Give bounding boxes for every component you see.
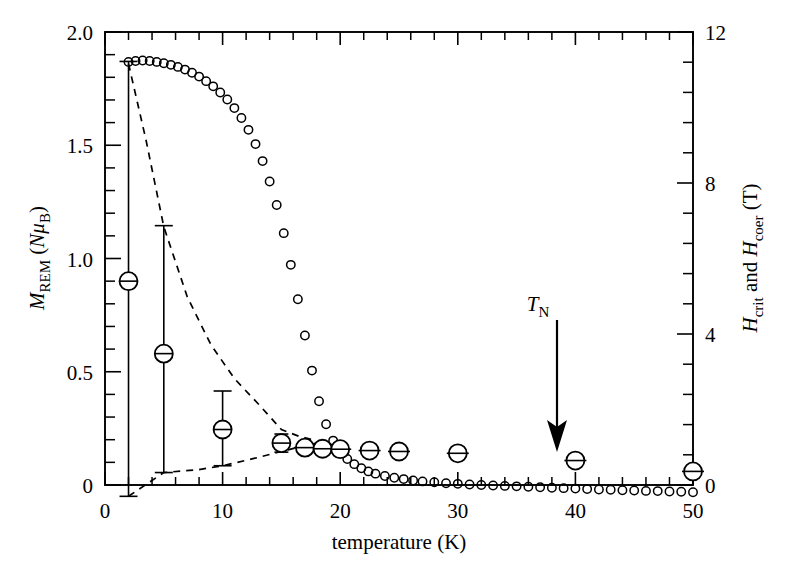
- svg-text:MREM (NμB): MREM (NμB): [25, 206, 53, 311]
- y-left-title-main: M: [25, 291, 49, 311]
- data-point-mrem: [223, 95, 231, 103]
- data-point-mrem: [583, 485, 591, 493]
- y-right-title-sub1: crit: [750, 297, 766, 318]
- x-axis-tick-labels: 01020304050: [100, 499, 704, 523]
- data-point-mrem: [280, 229, 288, 237]
- y-left-tick-label: 0: [83, 474, 94, 498]
- y-right-axis-major-ticks: [677, 32, 693, 485]
- x-tick-label: 0: [100, 499, 111, 523]
- y-left-title-B: B: [37, 213, 53, 223]
- y-right-axis-title: Hcrit and Hcoer (T): [738, 183, 766, 333]
- y-right-title-sub2: coer: [750, 216, 766, 242]
- y-left-axis-tick-labels: 00.51.01.52.0: [67, 21, 93, 498]
- y-right-tick-label: 0: [705, 474, 716, 498]
- data-point-mrem: [665, 487, 673, 495]
- data-point-mrem: [381, 472, 389, 480]
- y-left-tick-label: 1.5: [67, 134, 93, 158]
- y-right-title-units: (T): [738, 183, 762, 215]
- y-left-tick-label: 1.0: [67, 248, 93, 272]
- tn-annotation: TN: [527, 292, 567, 452]
- data-point-mrem: [272, 201, 280, 209]
- data-point-mrem: [294, 295, 302, 303]
- y-right-title-and: and: [738, 257, 762, 298]
- magnetization-vs-temperature-chart: 01020304050 00.51.01.52.0 04812 TN tempe…: [0, 0, 792, 570]
- x-axis-major-ticks: [105, 32, 693, 485]
- x-tick-label: 40: [565, 499, 586, 523]
- y-left-title-paren-open: (: [25, 248, 49, 260]
- data-point-mrem: [512, 482, 520, 490]
- y-left-title-N: N: [25, 233, 49, 249]
- dashed-guide-curve: [129, 64, 317, 441]
- data-point-mrem: [595, 485, 603, 493]
- data-point-mrem: [308, 366, 316, 374]
- x-tick-label: 30: [447, 499, 468, 523]
- x-axis-title: temperature (K): [332, 530, 467, 554]
- data-point-mrem: [209, 82, 217, 90]
- x-tick-label: 20: [330, 499, 351, 523]
- data-point-mrem: [251, 140, 259, 148]
- data-point-mrem: [442, 479, 450, 487]
- y-right-axis-minor-ticks: [683, 62, 693, 455]
- x-tick-label: 10: [212, 499, 233, 523]
- tn-label-sub: N: [538, 304, 549, 320]
- x-axis-minor-ticks: [129, 32, 670, 485]
- figure-container: 01020304050 00.51.01.52.0 04812 TN tempe…: [0, 0, 792, 570]
- data-point-mrem: [689, 488, 697, 496]
- y-right-tick-label: 12: [705, 21, 726, 45]
- data-point-mrem: [677, 488, 685, 496]
- data-point-mrem: [265, 177, 273, 185]
- data-point-mrem: [216, 88, 224, 96]
- data-point-mrem: [301, 331, 309, 339]
- y-left-title-mu: μ: [25, 223, 49, 235]
- y-right-tick-label: 8: [705, 172, 716, 196]
- y-left-axis-title: MREM (NμB): [25, 206, 53, 311]
- data-point-mrem: [390, 474, 398, 482]
- plot-frame: [105, 32, 693, 485]
- y-left-tick-label: 2.0: [67, 21, 93, 45]
- data-point-mrem: [244, 126, 252, 134]
- data-point-mrem: [630, 486, 638, 494]
- y-right-tick-label: 4: [705, 323, 716, 347]
- error-bar-group: [120, 61, 704, 496]
- svg-text:Hcrit and Hcoer (T): Hcrit and Hcoer (T): [738, 183, 766, 333]
- data-point-mrem: [287, 261, 295, 269]
- y-left-tick-label: 0.5: [67, 361, 93, 385]
- data-point-mrem: [322, 420, 330, 428]
- data-point-mrem: [400, 475, 408, 483]
- data-point-mrem: [618, 486, 626, 494]
- data-point-mrem: [315, 397, 323, 405]
- tn-label: TN: [527, 292, 550, 320]
- y-right-axis-tick-labels: 04812: [705, 21, 726, 498]
- data-point-mrem: [258, 157, 266, 165]
- data-point-mrem: [654, 487, 662, 495]
- x-tick-label: 50: [683, 499, 704, 523]
- remanent-magnetization-points: [124, 56, 697, 496]
- y-left-title-paren-close: ): [25, 206, 49, 213]
- data-point-mrem: [606, 486, 614, 494]
- data-point-mrem: [230, 104, 238, 112]
- data-point-mrem: [642, 487, 650, 495]
- data-point-mrem: [237, 114, 245, 122]
- critical-field-points: [120, 272, 702, 480]
- y-left-title-sub: REM: [37, 260, 53, 293]
